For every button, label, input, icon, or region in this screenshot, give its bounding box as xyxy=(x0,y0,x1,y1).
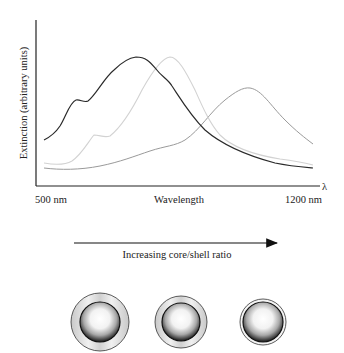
core-shell-extinction-diagram: λ Extinction (arbitrary units) 500 nm Wa… xyxy=(0,0,344,353)
curve-thin-shell xyxy=(44,88,313,169)
curve-medium-shell xyxy=(44,57,313,165)
x-tick-max: 1200 nm xyxy=(285,194,322,205)
particle-thin-shell xyxy=(240,299,286,345)
y-axis-label: Extinction (arbitrary units) xyxy=(18,46,30,159)
arrow-label: Increasing core/shell ratio xyxy=(122,249,231,260)
curve-thick-shell xyxy=(44,57,313,168)
chart-axes: λ xyxy=(36,20,328,192)
particle-medium-shell xyxy=(155,296,207,348)
x-axis-label: Wavelength xyxy=(154,194,205,205)
particle-thick-shell xyxy=(71,293,129,351)
x-tick-min: 500 nm xyxy=(35,194,67,205)
x-axis-symbol: λ xyxy=(322,181,328,192)
spectra-curves xyxy=(44,57,313,169)
